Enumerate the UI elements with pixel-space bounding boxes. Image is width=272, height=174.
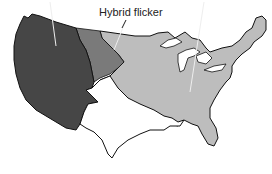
us-range-map bbox=[0, 0, 272, 174]
pointer-line-hybrid-top bbox=[122, 20, 126, 28]
hybrid-flicker-label: Hybrid flicker bbox=[99, 6, 163, 18]
